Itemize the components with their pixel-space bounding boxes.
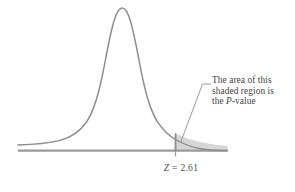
callout-line-3-suffix: -value <box>232 96 256 106</box>
callout-line-2: shaded region is <box>212 86 274 96</box>
critical-value-label: Z = 2.61 <box>145 163 217 174</box>
pvalue-callout-label: The area of thisshaded region isthe P-va… <box>212 75 295 107</box>
pvalue-normal-curve-figure: The area of thisshaded region isthe P-va… <box>0 0 295 192</box>
callout-line-3-prefix: the <box>212 96 226 106</box>
callout-line-1: The area of this <box>212 75 272 85</box>
callout-leader-line <box>181 84 211 142</box>
axis-label-value: = 2.61 <box>169 163 198 173</box>
normal-curve <box>18 8 228 151</box>
